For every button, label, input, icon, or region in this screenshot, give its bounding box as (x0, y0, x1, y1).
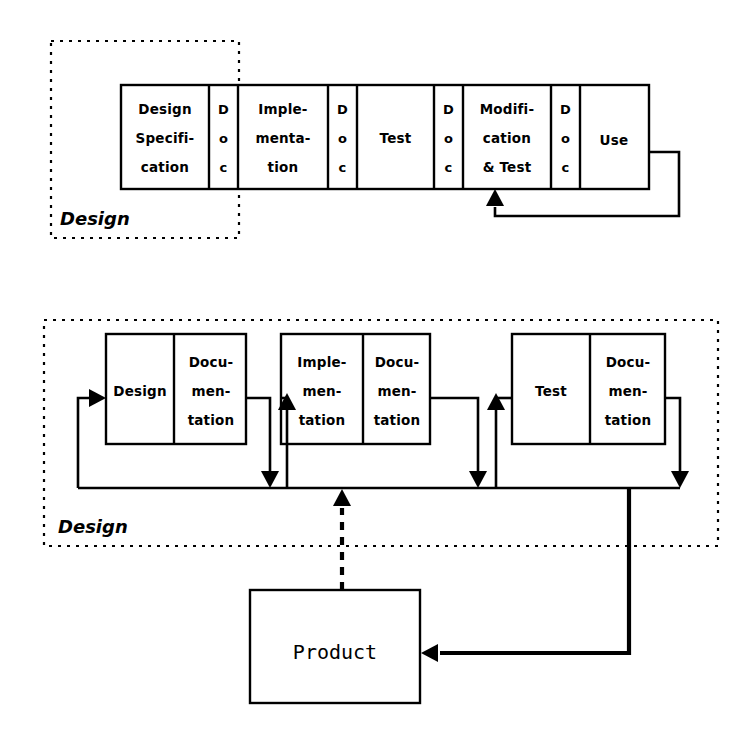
top-cell-line: D (337, 102, 348, 117)
top-diagram: Design Design Specifi- cation D o c (51, 41, 679, 238)
bottom-design-frame-label: Design (58, 516, 128, 537)
top-cell-line: Test (380, 130, 412, 146)
top-cell-line: cation (141, 159, 189, 175)
top-cell-line: tion (268, 159, 299, 175)
bottom-connection-implementation-to-bus (430, 398, 487, 488)
top-cell-line: Design (138, 101, 192, 117)
top-cell-line: menta- (255, 130, 310, 146)
top-cell-line: & Test (483, 159, 532, 175)
top-cell-line: o (219, 131, 228, 146)
top-cell-line: D (560, 102, 571, 117)
bottom-group-implementation[interactable]: Imple- men- tation Docu- men- tation (281, 334, 430, 444)
top-cell-test[interactable]: Test (380, 130, 412, 146)
connection-test-to-product (421, 488, 629, 662)
top-design-frame-label: Design (60, 208, 130, 229)
bottom-cell-documentation-line: men- (191, 383, 230, 399)
top-cell-line: c (445, 160, 453, 175)
top-cell-doc-3[interactable]: D o c (443, 102, 454, 175)
top-cell-line: Use (600, 132, 629, 148)
top-cell-line: c (220, 160, 228, 175)
top-cell-modification-and-test[interactable]: Modifi- cation & Test (480, 101, 535, 175)
bottom-cell-documentation-line: tation (188, 412, 235, 428)
connection-product-to-bus (333, 489, 351, 590)
top-cell-line: o (561, 131, 570, 146)
bottom-cell-documentation-line: men- (608, 383, 647, 399)
bottom-cell-test: Test (535, 383, 567, 399)
bottom-cell-implementation-line: men- (302, 383, 341, 399)
bottom-cell-documentation-line: Docu- (375, 354, 420, 370)
bottom-connection-design-to-bus (246, 398, 279, 488)
top-cell-line: Imple- (258, 101, 307, 117)
bottom-connection-bus-to-design (78, 389, 106, 488)
top-cell-line: Specifi- (136, 130, 195, 146)
top-cell-doc-2[interactable]: D o c (337, 102, 348, 175)
top-cell-line: c (339, 160, 347, 175)
diagram-canvas: Design Design Specifi- cation D o c (0, 0, 754, 739)
top-cell-doc-1[interactable]: D o c (218, 102, 229, 175)
bottom-cell-documentation-line: men- (377, 383, 416, 399)
top-cell-line: cation (483, 130, 531, 146)
top-cell-design-specification[interactable]: Design Specifi- cation (136, 101, 195, 175)
top-cell-line: o (338, 131, 347, 146)
bottom-diagram: Design Design Docu- men- tation Imple- m… (44, 320, 718, 546)
bottom-cell-documentation-line: Docu- (189, 354, 234, 370)
product-section: Product (250, 488, 629, 703)
bottom-group-test[interactable]: Test Docu- men- tation (512, 334, 665, 444)
bottom-cell-design: Design (113, 383, 167, 399)
bottom-cell-documentation-line: tation (605, 412, 652, 428)
top-cell-line: o (444, 131, 453, 146)
bottom-cell-documentation-line: tation (374, 412, 421, 428)
bottom-connection-test-to-bus (665, 398, 689, 488)
bottom-cell-implementation-line: tation (299, 412, 346, 428)
top-cell-doc-4[interactable]: D o c (560, 102, 571, 175)
bottom-cell-documentation-line: Docu- (606, 354, 651, 370)
top-cell-line: Modifi- (480, 101, 535, 117)
bottom-cell-implementation-line: Imple- (297, 354, 346, 370)
top-cell-use[interactable]: Use (600, 132, 629, 148)
top-cell-line: D (218, 102, 229, 117)
bottom-group-design[interactable]: Design Docu- men- tation (106, 334, 246, 444)
bottom-connection-bus-to-test (487, 393, 512, 488)
top-cell-line: c (562, 160, 570, 175)
top-cell-line: D (443, 102, 454, 117)
product-label: Product (293, 640, 377, 664)
